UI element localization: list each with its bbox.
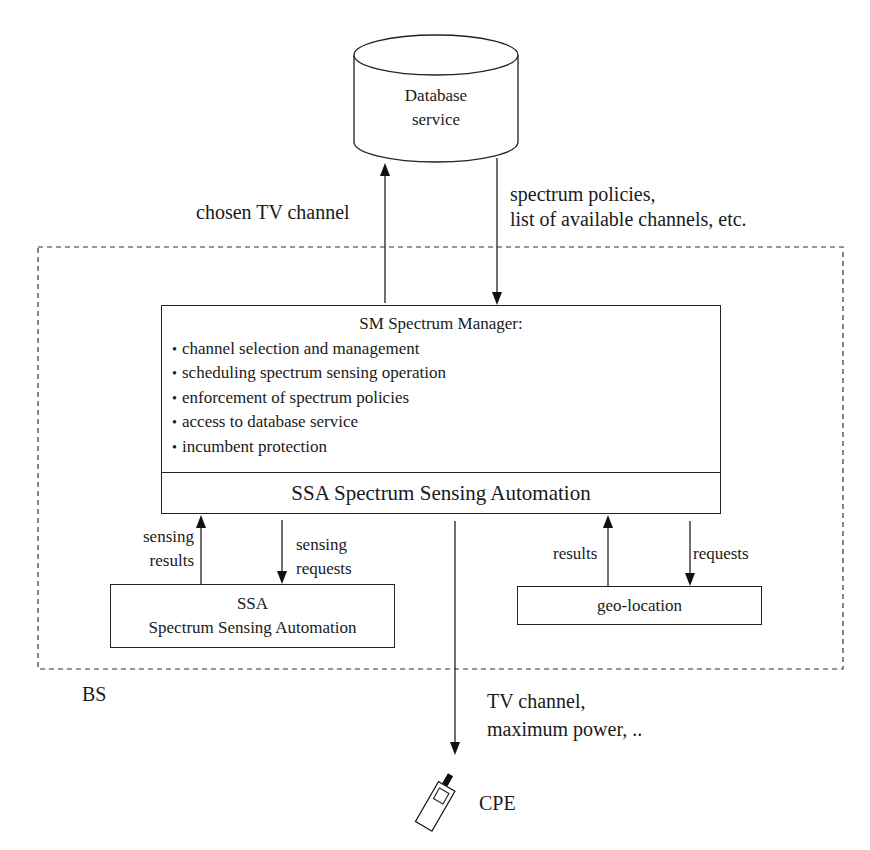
spectrum-manager-title: SM Spectrum Manager: [162, 314, 720, 334]
arrow-geo-results [603, 515, 613, 586]
edge-label-sensing-results: sensing results [130, 525, 194, 573]
policies-line1: spectrum policies, [510, 182, 747, 207]
mobile-device-icon [415, 771, 460, 831]
arrow-from-database [492, 158, 502, 305]
function-item: scheduling spectrum sensing operation [172, 361, 446, 385]
ssa-module-line2: Spectrum Sensing Automation [111, 616, 394, 640]
sensing-requests-line2: requests [296, 557, 352, 581]
policies-line2: list of available channels, etc. [510, 207, 747, 232]
edge-label-geo-requests: requests [693, 544, 749, 564]
edge-label-spectrum-policies: spectrum policies, list of available cha… [510, 182, 747, 232]
arrow-to-database [380, 163, 390, 303]
to-cpe-line1: TV channel, [487, 687, 642, 715]
edge-label-to-cpe: TV channel, maximum power, .. [487, 687, 642, 743]
edge-label-geo-results: results [553, 544, 597, 564]
geo-location-box: geo-location [517, 586, 762, 625]
base-station-label: BS [82, 682, 106, 706]
function-item: enforcement of spectrum policies [172, 386, 446, 410]
database-label-line1: Database [354, 84, 518, 108]
arrow-sensing-requests [277, 520, 287, 584]
cpe-label: CPE [479, 791, 516, 815]
edge-label-sensing-requests: sensing requests [296, 533, 352, 581]
database-label-line2: service [354, 108, 518, 132]
function-item: channel selection and management [172, 337, 446, 361]
spectrum-manager-box: SM Spectrum Manager: channel selection a… [161, 305, 721, 514]
database-service-label: Database service [354, 84, 518, 132]
sensing-results-line1: sensing [130, 525, 194, 549]
ssa-module-box: SSA Spectrum Sensing Automation [110, 584, 395, 648]
function-item: incumbent protection [172, 435, 446, 459]
spectrum-manager-functions: channel selection and management schedul… [172, 337, 446, 459]
sensing-requests-line1: sensing [296, 533, 352, 557]
arrow-sensing-results [196, 515, 206, 584]
arrow-to-cpe [450, 521, 460, 755]
ssa-bar: SSA Spectrum Sensing Automation [162, 472, 720, 513]
to-cpe-line2: maximum power, .. [487, 715, 642, 743]
ssa-module-line1: SSA [111, 592, 394, 616]
sensing-results-line2: results [130, 549, 194, 573]
edge-label-chosen-channel: chosen TV channel [196, 200, 350, 224]
function-item: access to database service [172, 410, 446, 434]
